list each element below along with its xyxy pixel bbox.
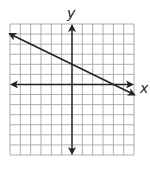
x-axis-label: x	[140, 80, 148, 96]
coordinate-graph	[0, 0, 150, 169]
axes	[12, 26, 132, 153]
y-axis-label: y	[67, 5, 75, 21]
